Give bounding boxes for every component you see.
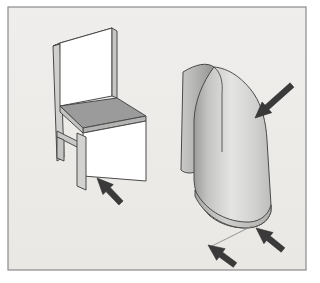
figure-container: Chair and curved surface illustration ch… (0, 0, 320, 283)
chair-back-panel-right-edge (112, 28, 117, 98)
chair-rear-leg-foot (57, 137, 64, 161)
illustration-canvas (0, 0, 320, 283)
chair-front-leg (77, 133, 86, 190)
